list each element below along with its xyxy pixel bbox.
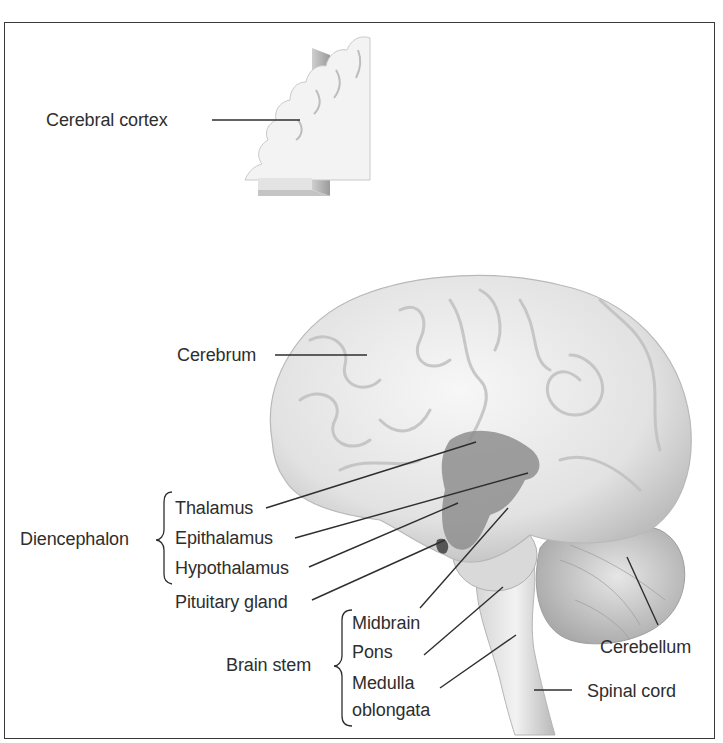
label-hypothalamus: Hypothalamus — [175, 559, 289, 577]
label-medulla-line2: oblongata — [352, 701, 430, 719]
label-cerebellum: Cerebellum — [600, 638, 691, 656]
label-thalamus: Thalamus — [175, 499, 253, 517]
label-epithalamus: Epithalamus — [175, 529, 273, 547]
cortex-wedge — [245, 37, 370, 196]
label-pituitary-gland: Pituitary gland — [175, 593, 288, 611]
label-brain-stem: Brain stem — [226, 656, 311, 674]
label-spinal-cord: Spinal cord — [587, 682, 676, 700]
label-midbrain: Midbrain — [352, 614, 420, 632]
label-medulla-line1: Medulla — [352, 674, 414, 692]
label-pons: Pons — [352, 643, 393, 661]
label-cerebral-cortex: Cerebral cortex — [46, 111, 168, 129]
cerebrum-shape — [270, 275, 691, 562]
label-cerebrum: Cerebrum — [177, 346, 256, 364]
label-diencephalon: Diencephalon — [20, 530, 129, 548]
